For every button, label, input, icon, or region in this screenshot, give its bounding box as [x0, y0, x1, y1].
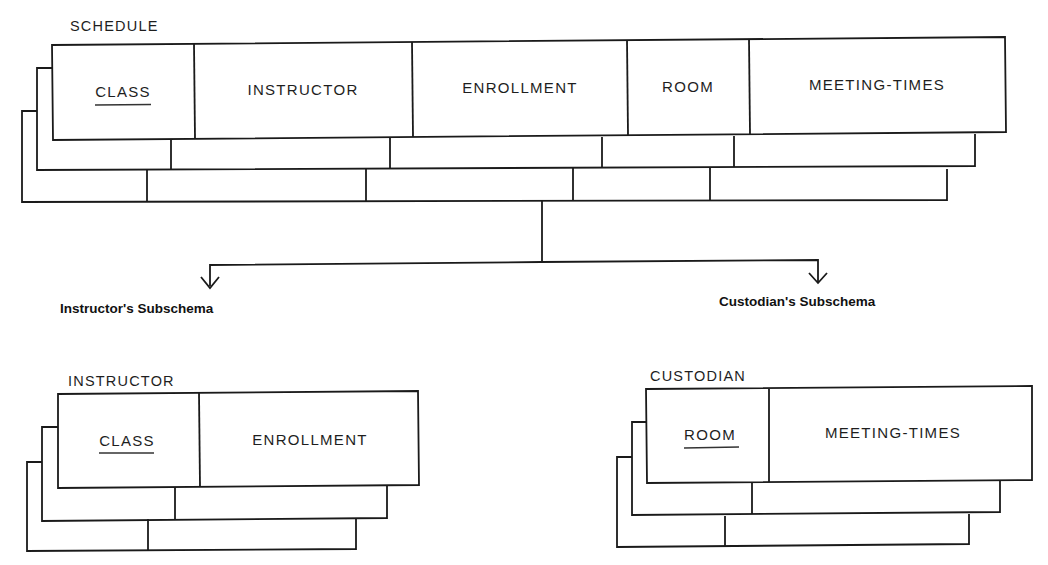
custodian-field-meeting-times: MEETING-TIMES — [825, 424, 961, 441]
schedule-field-meeting-times: MEETING-TIMES — [809, 76, 945, 93]
custodian-field-room: ROOM — [684, 426, 736, 443]
schema-diagram: SCHEDULE CLASS INSTRUCTOR ENROLLMENT ROO… — [0, 0, 1048, 565]
instructor-record-stack: INSTRUCTOR CLASS ENROLLMENT — [27, 373, 419, 551]
custodian-title: CUSTODIAN — [650, 368, 746, 384]
schedule-field-instructor: INSTRUCTOR — [247, 81, 358, 98]
schedule-front-divider — [749, 39, 750, 134]
schedule-front-divider — [194, 44, 195, 139]
schedule-field-enrollment: ENROLLMENT — [462, 79, 578, 96]
schedule-field-room: ROOM — [662, 78, 714, 95]
instructor-title: INSTRUCTOR — [68, 373, 175, 389]
schedule-title: SCHEDULE — [70, 18, 159, 34]
schedule-front-divider — [412, 42, 413, 137]
connector-branch — [210, 260, 818, 286]
instructor-front-divider — [199, 393, 200, 487]
subschema-connector: Instructor's Subschema Custodian's Subsc… — [60, 201, 876, 316]
instructor-subschema-label: Instructor's Subschema — [60, 301, 214, 316]
custodian-subschema-label: Custodian's Subschema — [719, 294, 876, 309]
key-underline — [684, 447, 739, 448]
instructor-field-class: CLASS — [99, 432, 155, 449]
schedule-record-stack: SCHEDULE CLASS INSTRUCTOR ENROLLMENT ROO… — [22, 18, 1006, 202]
schedule-front-divider — [627, 40, 628, 135]
schedule-field-class: CLASS — [95, 83, 151, 100]
custodian-record-stack: CUSTODIAN ROOM MEETING-TIMES — [617, 368, 1032, 547]
key-underline — [95, 105, 151, 106]
instructor-field-enrollment: ENROLLMENT — [252, 431, 368, 448]
